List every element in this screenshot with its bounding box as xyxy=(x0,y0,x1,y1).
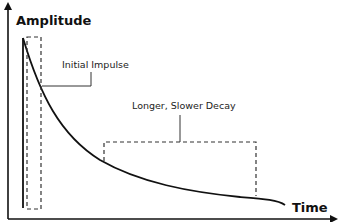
decay-diagram: Amplitude Time Initial Impulse Longer, S… xyxy=(0,0,341,222)
initial-impulse-box xyxy=(27,37,41,209)
y-axis-label: Amplitude xyxy=(16,13,92,28)
initial-impulse-label: Initial Impulse xyxy=(62,59,129,70)
slower-decay-label: Longer, Slower Decay xyxy=(132,100,236,111)
initial-impulse-connector xyxy=(42,72,91,86)
x-axis-label: Time xyxy=(292,200,328,215)
